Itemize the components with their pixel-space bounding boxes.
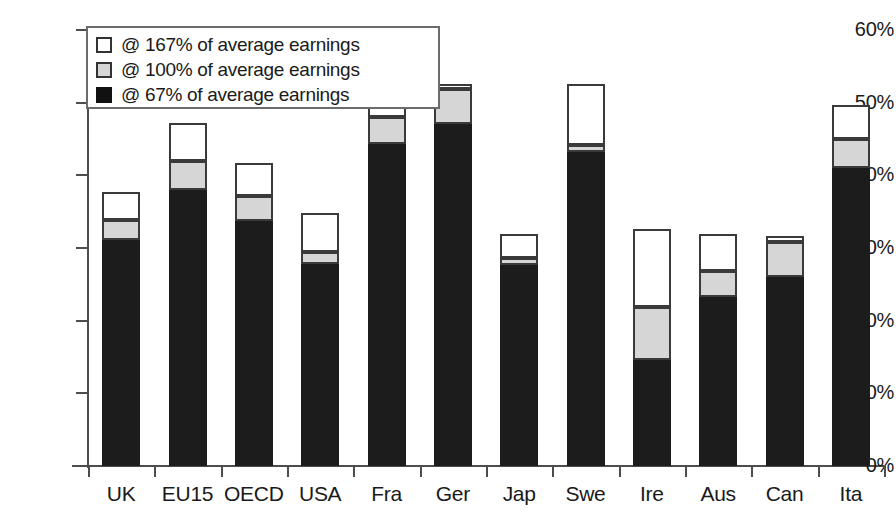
x-axis-tick xyxy=(420,466,422,477)
bar-ita xyxy=(832,30,870,466)
y-axis-tick xyxy=(76,320,88,322)
x-axis-tick xyxy=(818,466,820,477)
x-axis-tick xyxy=(751,466,753,477)
legend-item-high: @ 167% of average earnings xyxy=(96,33,430,57)
legend-item-mid: @ 100% of average earnings xyxy=(96,58,430,82)
legend-swatch-167-icon xyxy=(96,37,112,53)
legend-item-low: @ 67% of average earnings xyxy=(96,83,430,107)
bar-aus xyxy=(699,30,737,466)
x-axis-tick xyxy=(619,466,621,477)
chart-legend: @ 167% of average earnings @ 100% of ave… xyxy=(86,26,440,109)
legend-swatch-67-icon xyxy=(96,87,112,103)
bar-segment-167 xyxy=(567,84,605,145)
bar-segment-167 xyxy=(832,105,870,139)
bar-segment-100 xyxy=(699,271,737,296)
bar-segment-67 xyxy=(102,240,140,466)
bar-segment-67 xyxy=(766,277,804,466)
bar-segment-167 xyxy=(633,229,671,307)
x-axis-tick xyxy=(353,466,355,477)
x-axis-label-ita: Ita xyxy=(806,482,896,506)
bar-segment-167 xyxy=(500,234,538,258)
bar-segment-100 xyxy=(633,307,671,360)
x-axis-tick xyxy=(552,466,554,477)
x-axis-tick xyxy=(88,466,90,477)
y-axis-tick xyxy=(76,465,88,467)
legend-label-high: @ 167% of average earnings xyxy=(121,34,360,56)
x-axis-tick xyxy=(154,466,156,477)
bar-segment-100 xyxy=(368,117,406,144)
bar-segment-100 xyxy=(301,252,339,264)
x-axis-tick xyxy=(884,466,886,477)
bar-segment-167 xyxy=(169,123,207,161)
bar-segment-67 xyxy=(235,221,273,466)
bar-segment-67 xyxy=(832,168,870,466)
y-axis-tick xyxy=(76,247,88,249)
y-axis-tick xyxy=(76,392,88,394)
bar-ire xyxy=(633,30,671,466)
x-axis-tick xyxy=(486,466,488,477)
bar-segment-100 xyxy=(102,220,140,240)
bar-segment-67 xyxy=(434,124,472,466)
legend-swatch-100-icon xyxy=(96,62,112,78)
bar-segment-67 xyxy=(368,144,406,466)
y-axis-tick xyxy=(76,174,88,176)
bar-segment-167 xyxy=(301,213,339,252)
bar-segment-167 xyxy=(235,163,273,196)
bar-segment-100 xyxy=(832,139,870,168)
bar-segment-167 xyxy=(102,192,140,220)
bar-segment-67 xyxy=(567,152,605,466)
legend-label-low: @ 67% of average earnings xyxy=(121,84,349,106)
bar-segment-100 xyxy=(169,161,207,190)
bar-segment-100 xyxy=(235,196,273,221)
x-axis-tick xyxy=(685,466,687,477)
x-axis-tick xyxy=(287,466,289,477)
bar-segment-100 xyxy=(766,242,804,277)
legend-label-mid: @ 100% of average earnings xyxy=(121,59,360,81)
bar-segment-67 xyxy=(301,264,339,466)
bar-jap xyxy=(500,30,538,466)
bar-segment-100 xyxy=(567,145,605,152)
bar-segment-167 xyxy=(699,234,737,271)
bar-segment-67 xyxy=(633,360,671,466)
bar-swe xyxy=(567,30,605,466)
x-axis-tick xyxy=(221,466,223,477)
bar-segment-67 xyxy=(699,297,737,466)
bar-segment-67 xyxy=(500,265,538,466)
bar-segment-67 xyxy=(169,190,207,466)
bar-can xyxy=(766,30,804,466)
